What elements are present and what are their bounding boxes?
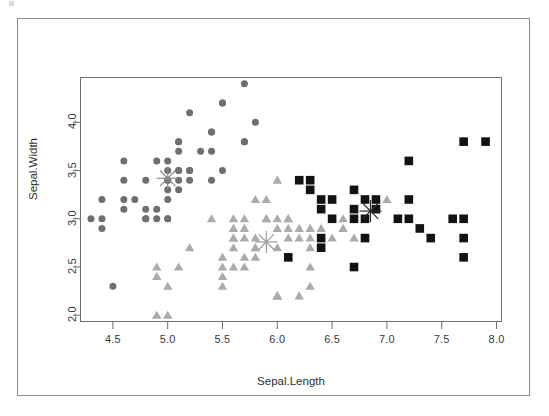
data-point-cluster-1 xyxy=(208,128,215,135)
data-point-cluster-1 xyxy=(98,215,105,222)
data-point-cluster-2 xyxy=(273,291,282,299)
data-point-cluster-1 xyxy=(142,177,149,184)
data-point-cluster-1 xyxy=(164,215,171,222)
data-point-cluster-2 xyxy=(229,243,238,251)
data-point-cluster-2 xyxy=(240,262,249,270)
x-axis-tick-label: 5.5 xyxy=(215,333,231,345)
data-point-cluster-3 xyxy=(361,234,370,243)
data-point-cluster-2 xyxy=(185,243,194,251)
data-point-cluster-2 xyxy=(218,282,227,290)
centroid-cluster-2 xyxy=(255,231,277,253)
data-point-cluster-2 xyxy=(229,214,238,222)
data-point-cluster-2 xyxy=(305,243,314,251)
x-axis-title: Sepal.Length xyxy=(257,375,325,387)
data-point-cluster-1 xyxy=(142,206,149,213)
data-point-cluster-1 xyxy=(164,157,171,164)
data-point-cluster-3 xyxy=(448,214,457,223)
data-point-cluster-2 xyxy=(349,233,358,241)
data-point-cluster-1 xyxy=(219,100,226,107)
data-point-cluster-2 xyxy=(382,195,391,203)
x-axis-tick-label: 7.0 xyxy=(379,333,395,345)
data-point-cluster-2 xyxy=(152,262,161,270)
data-point-cluster-1 xyxy=(175,138,182,145)
data-point-cluster-2 xyxy=(273,176,282,184)
data-point-cluster-1 xyxy=(252,119,259,126)
data-point-cluster-2 xyxy=(295,224,304,232)
data-point-cluster-3 xyxy=(426,234,435,243)
data-point-cluster-3 xyxy=(350,205,359,214)
data-point-cluster-1 xyxy=(208,148,215,155)
series-cluster-1 xyxy=(87,80,258,290)
data-point-cluster-2 xyxy=(295,291,304,299)
data-point-cluster-1 xyxy=(131,196,138,203)
y-axis-tick-label: 2.5 xyxy=(66,253,78,279)
data-point-cluster-1 xyxy=(175,186,182,193)
data-point-cluster-1 xyxy=(120,157,127,164)
data-point-cluster-1 xyxy=(142,215,149,222)
data-point-cluster-1 xyxy=(164,196,171,203)
data-point-cluster-3 xyxy=(459,253,468,262)
data-point-cluster-3 xyxy=(405,195,414,204)
data-point-cluster-3 xyxy=(415,224,424,233)
data-point-cluster-1 xyxy=(186,167,193,174)
data-point-cluster-2 xyxy=(218,253,227,261)
data-point-cluster-2 xyxy=(163,282,172,290)
data-point-cluster-3 xyxy=(350,186,359,195)
x-axis-tick-label: 7.5 xyxy=(434,333,450,345)
data-point-cluster-1 xyxy=(241,80,248,87)
data-point-cluster-2 xyxy=(305,233,314,241)
data-point-cluster-2 xyxy=(338,224,347,232)
figure-root: 4.55.05.56.06.57.07.58.02.02.53.03.54.0 … xyxy=(0,0,549,416)
data-point-cluster-2 xyxy=(152,272,161,280)
data-point-cluster-2 xyxy=(240,214,249,222)
data-point-cluster-1 xyxy=(87,215,94,222)
centroid-cluster-1 xyxy=(157,167,179,189)
data-point-cluster-1 xyxy=(241,138,248,145)
data-point-cluster-2 xyxy=(284,233,293,241)
data-point-cluster-2 xyxy=(273,224,282,232)
data-point-cluster-2 xyxy=(240,233,249,241)
x-axis-tick-label: 4.5 xyxy=(105,333,121,345)
data-point-cluster-3 xyxy=(459,234,468,243)
x-axis-tick-label: 6.0 xyxy=(269,333,285,345)
data-point-cluster-1 xyxy=(186,177,193,184)
data-point-cluster-3 xyxy=(328,195,337,204)
data-point-cluster-3 xyxy=(405,214,414,223)
axis-tick-marks xyxy=(73,122,497,329)
data-point-cluster-1 xyxy=(98,225,105,232)
data-point-cluster-2 xyxy=(163,311,172,319)
data-point-cluster-2 xyxy=(305,224,314,232)
data-point-cluster-2 xyxy=(229,262,238,270)
x-axis-tick-label: 5.0 xyxy=(160,333,176,345)
data-point-cluster-1 xyxy=(98,196,105,203)
data-point-cluster-1 xyxy=(208,177,215,184)
data-point-cluster-3 xyxy=(306,186,315,195)
data-point-cluster-2 xyxy=(305,262,314,270)
data-point-cluster-3 xyxy=(317,195,326,204)
data-point-cluster-2 xyxy=(218,262,227,270)
data-point-cluster-2 xyxy=(240,253,249,261)
data-point-cluster-3 xyxy=(317,205,326,214)
data-point-cluster-1 xyxy=(186,109,193,116)
data-point-cluster-2 xyxy=(295,233,304,241)
data-point-cluster-3 xyxy=(459,137,468,146)
series-cluster-3 xyxy=(284,137,490,271)
data-point-cluster-2 xyxy=(316,224,325,232)
data-point-cluster-1 xyxy=(153,215,160,222)
data-point-cluster-2 xyxy=(251,253,260,261)
data-point-cluster-2 xyxy=(207,214,216,222)
data-point-cluster-2 xyxy=(152,311,161,319)
data-point-cluster-2 xyxy=(305,282,314,290)
x-axis-tick-label: 6.5 xyxy=(324,333,340,345)
data-point-cluster-1 xyxy=(175,148,182,155)
data-point-cluster-1 xyxy=(153,206,160,213)
data-point-cluster-3 xyxy=(350,214,359,223)
data-point-cluster-3 xyxy=(361,195,370,204)
data-point-cluster-2 xyxy=(251,243,260,251)
data-point-cluster-3 xyxy=(317,243,326,252)
data-point-cluster-1 xyxy=(120,206,127,213)
y-axis-tick-label: 2.0 xyxy=(66,301,78,327)
x-axis-tick-label: 8.0 xyxy=(489,333,505,345)
scatter-plot-canvas xyxy=(0,0,549,416)
data-point-cluster-1 xyxy=(175,167,182,174)
